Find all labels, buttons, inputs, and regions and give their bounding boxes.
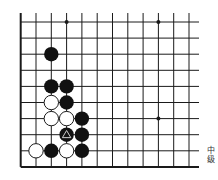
black-stone — [59, 95, 73, 109]
black-stone — [59, 79, 73, 93]
black-stone — [44, 144, 58, 158]
black-stone — [44, 47, 58, 61]
go-board-diagram — [0, 0, 218, 180]
star-point-icon — [156, 20, 160, 24]
caption-level-line1: 中 — [207, 146, 215, 155]
star-point-icon — [156, 117, 160, 121]
white-stone — [44, 111, 58, 125]
white-stone — [29, 144, 43, 158]
star-point-icon — [65, 20, 69, 24]
black-stone — [75, 111, 89, 125]
white-stone — [59, 111, 73, 125]
black-stone — [75, 144, 89, 158]
white-stone — [59, 144, 73, 158]
caption-level-line2: 级 — [207, 155, 215, 164]
black-stone — [44, 79, 58, 93]
black-stone — [75, 128, 89, 142]
white-stone — [44, 95, 58, 109]
